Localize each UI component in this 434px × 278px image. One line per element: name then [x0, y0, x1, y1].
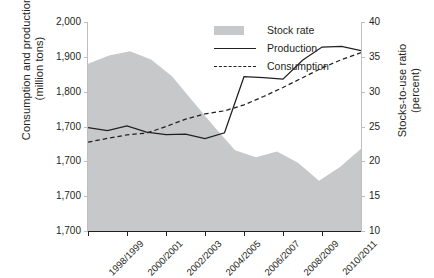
y-axis-left-tick-label: 1,700 [41, 225, 81, 236]
y-axis-right-tick-label: 15 [369, 190, 399, 201]
x-axis-tick-label: 2008/2009 [301, 238, 341, 278]
y-axis-right-tick-label: 10 [369, 225, 399, 236]
y-axis-left-tick-label: 2,000 [41, 16, 81, 27]
legend-label-consumption: Consumption [267, 60, 329, 72]
x-axis-tick-label: 2000/2001 [145, 238, 185, 278]
x-axis-tick-label: 2010/2011 [340, 238, 379, 277]
legend-item-consumption: Consumption [214, 58, 329, 74]
legend-item-production: Production [214, 40, 329, 56]
y-axis-left-title-line1: Consumption and production [20, 0, 33, 164]
legend-key-solid-line [214, 43, 256, 54]
x-axis-tick-mark [283, 232, 284, 236]
x-axis-tick-label: 2004/2005 [223, 238, 263, 278]
y-axis-right-tick-label: 40 [369, 16, 399, 27]
y-axis-right-title-line2: (percent) [408, 0, 421, 186]
y-axis-right-tick-label: 25 [369, 121, 399, 132]
y-axis-left-tick-label: 1,700 [41, 121, 81, 132]
x-axis-tick-mark [205, 232, 206, 236]
x-axis-tick-mark [127, 232, 128, 236]
y-axis-right-tick-mark [361, 92, 365, 93]
series-stock-rate-area [88, 51, 361, 231]
legend-key-area-swatch [214, 25, 256, 36]
y-axis-right-tick-mark [361, 127, 365, 128]
y-axis-right-tick-label: 20 [369, 155, 399, 166]
x-axis-spine [87, 231, 362, 232]
legend-key-dashed-line [214, 61, 256, 72]
x-axis-tick-mark [166, 232, 167, 236]
y-axis-right-tick-mark [361, 57, 365, 58]
y-axis-right-tick-mark [361, 196, 365, 197]
y-axis-right-tick-mark [361, 231, 365, 232]
x-axis-tick-label: 1998/1999 [106, 238, 146, 278]
y-axis-right-tick-mark [361, 161, 365, 162]
y-axis-left-tick-label: 1,700 [41, 155, 81, 166]
x-axis-tick-mark [322, 232, 323, 236]
x-axis-tick-mark [244, 232, 245, 236]
legend-label-stock-rate: Stock rate [267, 24, 314, 36]
legend-label-production: Production [267, 42, 317, 54]
x-axis-tick-label: 2006/2007 [262, 238, 302, 278]
chart-legend: Stock rate Production Consumption [214, 22, 329, 76]
x-axis-tick-mark [88, 232, 89, 236]
y-axis-right-tick-mark [361, 22, 365, 23]
y-axis-left-tick-label: 1,900 [41, 51, 81, 62]
legend-item-stock-rate: Stock rate [214, 22, 329, 38]
y-axis-left-tick-label: 1,700 [41, 190, 81, 201]
x-axis-tick-label: 2002/2003 [184, 238, 224, 278]
y-axis-right-tick-label: 35 [369, 51, 399, 62]
y-axis-left-tick-label: 1,800 [41, 86, 81, 97]
y-axis-right-title: Stocks-to-use ratio (percent) [396, 0, 421, 186]
y-axis-right-tick-label: 30 [369, 86, 399, 97]
